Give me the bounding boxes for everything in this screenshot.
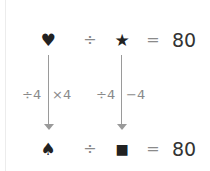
equals-sign: = — [141, 139, 165, 159]
bottom-result: 80 — [172, 139, 196, 159]
left-border — [5, 0, 6, 171]
equals-sign: = — [141, 30, 165, 50]
spade-icon: ♠ — [36, 139, 60, 159]
divide-operator: ÷ — [78, 30, 102, 50]
square-icon: ■ — [110, 139, 134, 159]
left-arrow-line — [48, 55, 49, 125]
right-transform-after: −4 — [126, 87, 145, 103]
right-arrow-line — [121, 55, 122, 125]
right-transform-before: ÷4 — [96, 87, 115, 103]
heart-icon: ♥ — [36, 30, 60, 50]
divide-operator: ÷ — [78, 139, 102, 159]
top-result: 80 — [172, 30, 196, 50]
right-arrowhead-icon — [117, 124, 127, 130]
left-transform-before: ÷4 — [22, 87, 41, 103]
left-arrowhead-icon — [44, 124, 54, 130]
star-icon: ★ — [110, 30, 134, 50]
left-transform-after: ×4 — [52, 87, 71, 103]
